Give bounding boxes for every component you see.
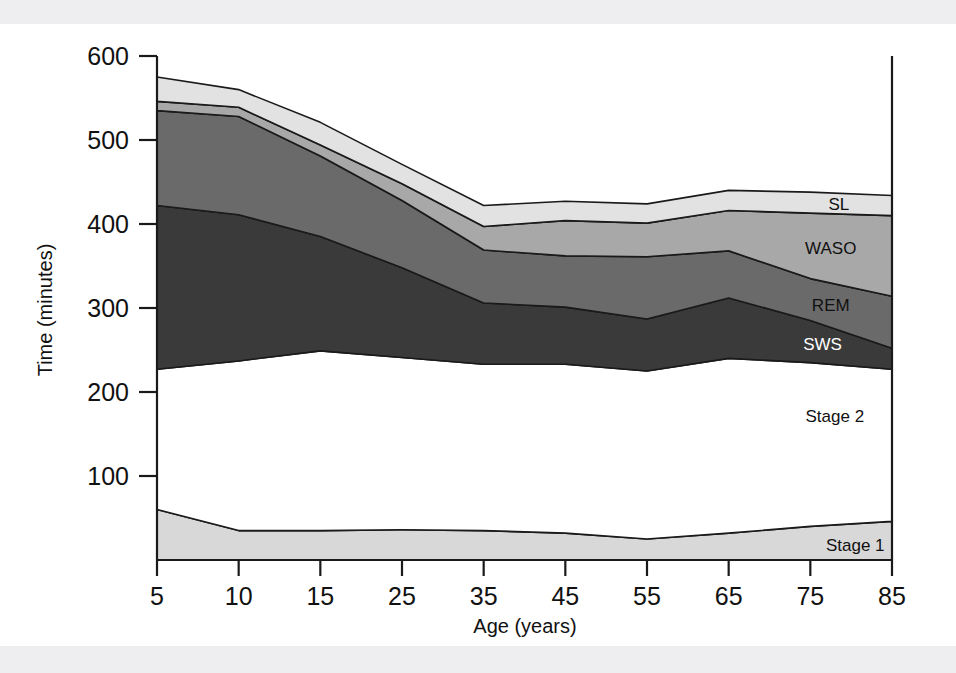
x-tick-label: 15 [306,582,334,610]
area-band-stage-2 [157,351,892,539]
y-tick-label: 100 [87,462,129,490]
y-axis-title: Time (minutes) [34,244,56,377]
x-tick-label: 65 [715,582,743,610]
series-label-stage-2: Stage 2 [806,407,865,426]
x-tick-label: 55 [633,582,661,610]
x-tick-label: 45 [551,582,579,610]
x-tick-label: 25 [388,582,416,610]
x-tick-label: 75 [796,582,824,610]
x-tick-label: 35 [470,582,498,610]
y-axis-tick-labels: 100200300400500600 [87,42,129,490]
series-label-sl: SL [829,195,850,214]
y-tick-label: 300 [87,294,129,322]
x-axis-tick-labels: 5101525354555657585 [150,582,906,610]
chart-areas-group [157,77,892,560]
series-label-stage-1: Stage 1 [826,536,885,555]
series-label-waso: WASO [805,239,856,258]
y-tick-label: 400 [87,210,129,238]
y-tick-label: 200 [87,378,129,406]
y-tick-label: 600 [87,42,129,70]
x-tick-label: 10 [225,582,253,610]
x-tick-label: 5 [150,582,164,610]
series-label-rem: REM [812,296,850,315]
x-axis-title: Age (years) [473,615,576,637]
y-tick-label: 500 [87,126,129,154]
series-label-sws: SWS [803,335,842,354]
figure-root: 100200300400500600 5101525354555657585 S… [0,0,956,673]
x-tick-label: 85 [878,582,906,610]
stacked-area-chart: 100200300400500600 5101525354555657585 S… [0,0,956,673]
